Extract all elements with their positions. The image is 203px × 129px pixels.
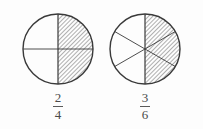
fraction-diagram-two-fourths: 2 4 (12, 10, 104, 129)
fraction-label-two-fourths: 2 4 (12, 91, 104, 121)
fraction-diagram-three-sixths: 3 6 (99, 10, 191, 129)
numerator: 2 (12, 91, 104, 105)
three-sixths-svg (99, 10, 191, 88)
fraction-figure: 2 4 (0, 0, 203, 129)
fraction-label-three-sixths: 3 6 (99, 91, 191, 121)
denominator: 4 (12, 108, 104, 122)
two-fourths-svg (12, 10, 104, 88)
circle-three-sixths (99, 10, 191, 88)
denominator: 6 (99, 108, 191, 122)
numerator: 3 (99, 91, 191, 105)
circle-two-fourths (12, 10, 104, 88)
